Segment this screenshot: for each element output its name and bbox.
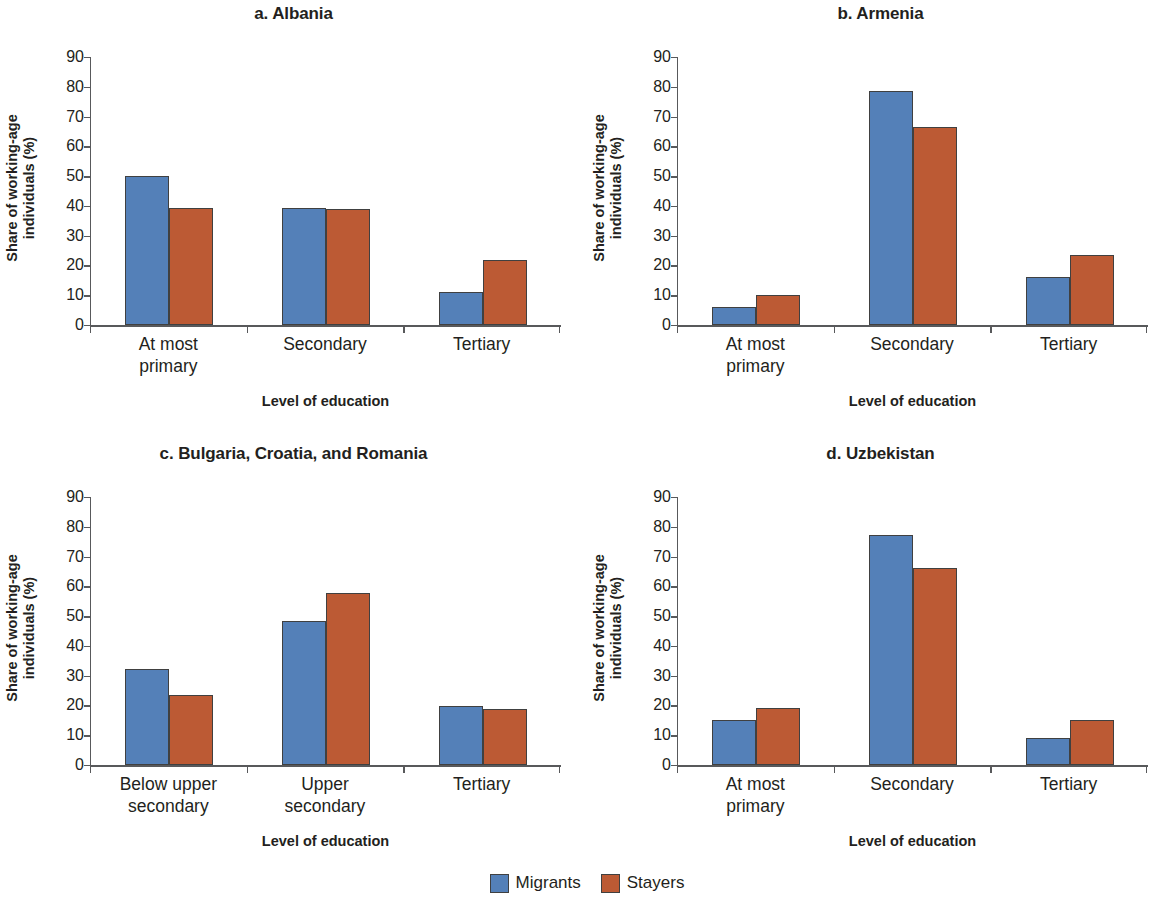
x-category-label: Tertiary (403, 773, 560, 795)
x-category-label: Below uppersecondary (90, 773, 247, 817)
x-axis-line (677, 325, 1148, 327)
y-axis-tick (671, 117, 678, 118)
y-tick-label: 80 (653, 519, 671, 535)
y-tick-label: 50 (653, 608, 671, 624)
y-axis-label: Share of working-age individuals (%) (4, 52, 38, 324)
panel-b: b. Armenia Share of working-age individu… (587, 0, 1174, 440)
y-axis-tick (84, 705, 91, 706)
y-axis-label: Share of working-age individuals (%) (591, 52, 625, 324)
bar-stayers (169, 695, 213, 765)
x-category-label-line: primary (677, 795, 834, 817)
y-tick-label: 60 (66, 138, 84, 154)
y-axis-tick (84, 176, 91, 177)
y-axis-label-line1: Share of working-age (591, 52, 608, 324)
bar-group (991, 497, 1148, 765)
y-axis-tick (84, 497, 91, 498)
x-category-label: Tertiary (990, 773, 1147, 795)
panel-title: a. Albania (0, 4, 587, 24)
bar-stayers (1070, 720, 1114, 765)
y-axis-label-line2: individuals (%) (608, 492, 625, 764)
x-axis-tick (834, 765, 835, 773)
y-axis-label-line2: individuals (%) (608, 52, 625, 324)
bar-migrants (125, 176, 169, 325)
bar-container (91, 497, 561, 765)
legend-item-stayers[interactable]: Stayers (601, 873, 685, 893)
bar-container (678, 57, 1148, 325)
y-tick-label: 60 (653, 578, 671, 594)
x-category-label-line: Tertiary (990, 773, 1147, 795)
y-axis-tick (84, 616, 91, 617)
y-axis-label: Share of working-age individuals (%) (591, 492, 625, 764)
y-tick-label: 80 (66, 519, 84, 535)
y-tick-label: 20 (653, 697, 671, 713)
x-category-labels: At mostprimarySecondaryTertiary (677, 773, 1148, 829)
bar-stayers (756, 708, 800, 765)
y-tick-label: 20 (66, 257, 84, 273)
y-axis-tick (671, 527, 678, 528)
x-axis-tick (247, 325, 248, 333)
y-axis-tick (671, 176, 678, 177)
legend-swatch-stayers (601, 874, 620, 893)
y-axis-tick (671, 586, 678, 587)
y-tick-label: 40 (653, 198, 671, 214)
y-axis-tick (84, 87, 91, 88)
bar-stayers (483, 709, 527, 765)
x-category-label: Secondary (834, 333, 991, 355)
y-tick-label: 10 (66, 727, 84, 743)
x-axis-tick (677, 325, 678, 333)
x-axis-line (677, 765, 1148, 767)
x-category-label-line: Tertiary (403, 333, 560, 355)
bar-migrants (712, 720, 756, 765)
y-axis-tick (671, 497, 678, 498)
legend-item-migrants[interactable]: Migrants (490, 873, 581, 893)
x-category-label-line: secondary (247, 795, 404, 817)
y-tick-label: 80 (653, 79, 671, 95)
x-axis-tick (677, 765, 678, 773)
bar-migrants (1026, 277, 1070, 325)
bar-group (678, 57, 835, 325)
x-axis-tick (90, 325, 91, 333)
y-axis-label-line2: individuals (%) (21, 52, 38, 324)
y-tick-label: 20 (653, 257, 671, 273)
x-category-label-line: Secondary (247, 333, 404, 355)
x-category-label-line: At most (677, 773, 834, 795)
y-tick-label: 30 (66, 668, 84, 684)
x-category-label-line: secondary (90, 795, 247, 817)
x-category-label-line: Secondary (834, 773, 991, 795)
x-category-label: Uppersecondary (247, 773, 404, 817)
bar-migrants (282, 621, 326, 765)
x-axis-tick (247, 765, 248, 773)
x-axis-label: Level of education (677, 393, 1148, 409)
y-tick-label: 20 (66, 697, 84, 713)
y-tick-label: 70 (66, 549, 84, 565)
x-category-labels: Below uppersecondaryUppersecondaryTertia… (90, 773, 561, 829)
y-tick-labels: 9080706050403020100 (40, 49, 84, 325)
bar-stayers (913, 127, 957, 325)
x-category-label-line: Upper (247, 773, 404, 795)
bar-group (678, 497, 835, 765)
bar-stayers (756, 295, 800, 325)
bar-migrants (869, 91, 913, 325)
x-category-label-line: At most (90, 333, 247, 355)
y-tick-label: 0 (662, 757, 671, 773)
y-tick-label: 50 (66, 168, 84, 184)
x-category-label-line: Secondary (834, 333, 991, 355)
bar-group (991, 57, 1148, 325)
x-axis-label: Level of education (677, 833, 1148, 849)
x-axis-tick (559, 325, 560, 333)
y-tick-labels: 9080706050403020100 (40, 489, 84, 765)
bar-stayers (913, 568, 957, 765)
y-axis-tick (671, 57, 678, 58)
x-category-labels: At mostprimarySecondaryTertiary (90, 333, 561, 389)
y-tick-label: 60 (66, 578, 84, 594)
y-axis-label-line1: Share of working-age (591, 492, 608, 764)
bar-migrants (439, 706, 483, 765)
x-category-labels: At mostprimarySecondaryTertiary (677, 333, 1148, 389)
x-category-label-line: Tertiary (990, 333, 1147, 355)
bar-group (404, 497, 561, 765)
x-axis-tick (90, 765, 91, 773)
x-category-label-line: Below upper (90, 773, 247, 795)
plot-area (90, 57, 561, 325)
x-category-label: Tertiary (403, 333, 560, 355)
panel-a: a. Albania Share of working-age individu… (0, 0, 587, 440)
